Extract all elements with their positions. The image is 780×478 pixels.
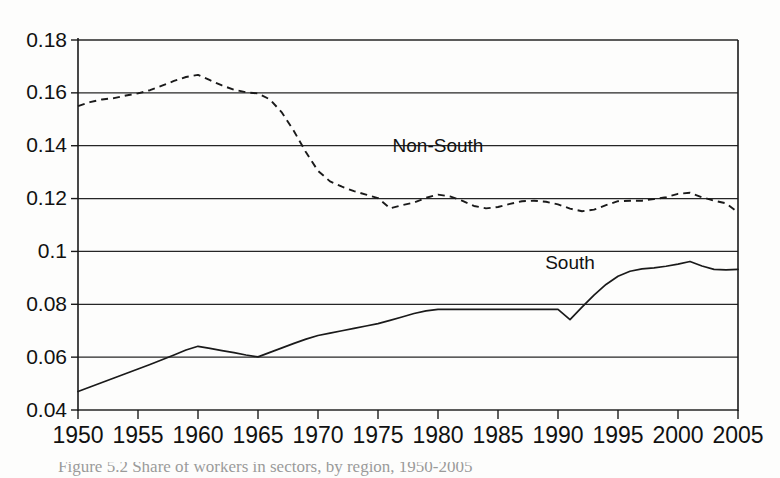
y-axis-tick-labels: 0.040.060.080.10.120.140.160.18 xyxy=(26,28,67,421)
data-series xyxy=(78,75,738,392)
x-tick-marks xyxy=(78,410,738,419)
x-tick-label-1: 1955 xyxy=(112,422,163,448)
y-tick-label-5: 0.14 xyxy=(26,133,67,156)
x-tick-label-6: 1980 xyxy=(412,422,463,448)
figure-container: 0.040.060.080.10.120.140.160.18 19501955… xyxy=(0,0,780,478)
figure-caption: Figure 5.2 Share of workers in sectors, … xyxy=(58,462,473,477)
x-tick-label-3: 1965 xyxy=(232,422,283,448)
series-path-south xyxy=(78,261,738,391)
y-tick-label-4: 0.12 xyxy=(26,186,67,209)
y-tick-label-7: 0.18 xyxy=(26,28,67,51)
y-tick-label-3: 0.1 xyxy=(38,239,67,262)
x-tick-label-11: 2005 xyxy=(712,422,763,448)
y-tick-marks xyxy=(71,40,78,410)
y-tick-label-1: 0.06 xyxy=(26,345,67,368)
x-tick-label-10: 2000 xyxy=(652,422,703,448)
x-tick-label-7: 1985 xyxy=(472,422,523,448)
x-tick-label-5: 1975 xyxy=(352,422,403,448)
series-label-south: South xyxy=(545,252,595,273)
x-tick-label-2: 1960 xyxy=(172,422,223,448)
x-tick-label-4: 1970 xyxy=(292,422,343,448)
x-axis-tick-labels: 1950195519601965197019751980198519901995… xyxy=(52,422,763,448)
y-tick-label-0: 0.04 xyxy=(26,398,67,421)
y-tick-label-2: 0.08 xyxy=(26,292,67,315)
series-label-non-south: Non-South xyxy=(393,135,484,156)
y-tick-label-6: 0.16 xyxy=(26,80,67,103)
x-tick-label-0: 1950 xyxy=(52,422,103,448)
figure-caption-clip: Figure 5.2 Share of workers in sectors, … xyxy=(0,462,780,478)
x-tick-label-9: 1995 xyxy=(592,422,643,448)
x-tick-label-8: 1990 xyxy=(532,422,583,448)
line-chart: 0.040.060.080.10.120.140.160.18 19501955… xyxy=(0,0,780,478)
